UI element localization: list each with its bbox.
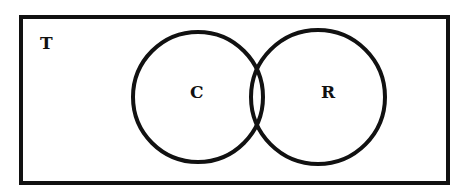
set-c-label: C <box>190 82 204 102</box>
universe-label: T <box>40 33 53 53</box>
venn-diagram: T C R <box>0 0 463 196</box>
set-r-circle <box>251 30 385 164</box>
set-r-label: R <box>321 82 336 102</box>
